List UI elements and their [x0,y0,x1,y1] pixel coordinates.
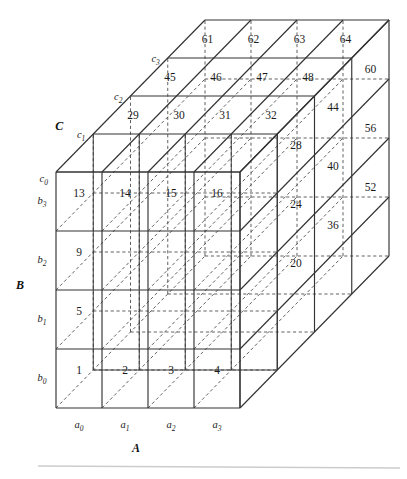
top-cell-value: 29 [127,109,139,121]
front-cell-value: 4 [214,364,220,376]
right-cell-value: 60 [365,63,377,75]
top-cell-value: 61 [202,33,214,45]
top-cell-value: 64 [340,33,352,45]
figure-background [0,0,407,479]
right-cell-value: 24 [290,198,302,210]
front-cell-value: 5 [76,305,82,317]
a-axis-label: A [131,441,140,455]
right-cell-value: 52 [365,181,377,193]
top-cell-value: 46 [210,71,222,83]
front-cell-value: 16 [211,187,223,199]
top-cell-value: 62 [248,33,260,45]
right-cell-value: 40 [327,160,339,172]
front-cell-value: 1 [76,364,82,376]
top-cell-value: 48 [302,71,314,83]
c-axis-label: C [55,119,64,133]
data-cube-figure: 1314151695123461626364454647482930313220… [0,0,407,479]
right-cell-value: 56 [365,122,377,134]
top-cell-value: 47 [256,71,268,83]
front-cell-value: 9 [76,246,82,258]
right-cell-value: 44 [327,101,339,113]
top-cell-value: 32 [265,109,277,121]
right-cell-value: 28 [290,139,302,151]
front-cell-value: 15 [165,187,177,199]
front-cell-value: 14 [119,187,131,199]
right-cell-value: 20 [290,257,302,269]
top-cell-value: 31 [219,109,231,121]
cube-svg: 1314151695123461626364454647482930313220… [0,0,407,479]
top-cell-value: 30 [173,109,185,121]
top-cell-value: 45 [164,71,176,83]
front-cell-value: 2 [122,364,128,376]
right-cell-value: 36 [327,219,339,231]
top-cell-value: 63 [294,33,306,45]
b-axis-label: B [15,278,24,292]
front-cell-value: 3 [168,364,174,376]
front-cell-value: 13 [73,187,85,199]
